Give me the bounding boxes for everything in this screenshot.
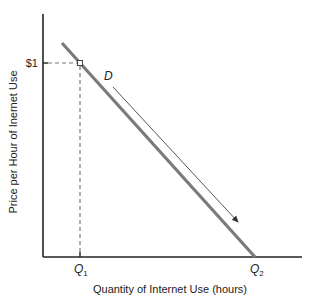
y-tick-label: $1 <box>26 57 38 69</box>
movement-arrow <box>113 87 238 222</box>
demand-curve <box>62 43 255 257</box>
x-tick-label-q1: Q1 <box>74 262 88 278</box>
curve-label-d: D <box>104 69 113 83</box>
point-marker <box>78 61 83 66</box>
x-axis-title: Quantity of Internet Use (hours) <box>93 283 247 295</box>
demand-chart: D $1 Q1 Q2 Quantity of Internet Use (hou… <box>0 0 312 302</box>
x-tick-label-q2: Q2 <box>250 262 264 278</box>
y-axis-title: Price per Hour of Inernet Use <box>7 70 19 213</box>
